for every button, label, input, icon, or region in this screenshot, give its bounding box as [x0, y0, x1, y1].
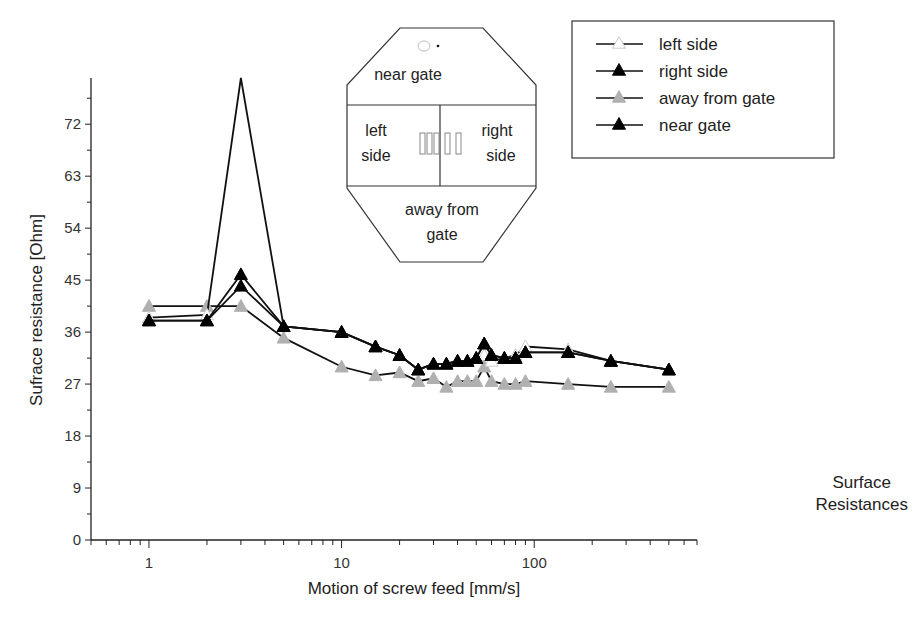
y-tick-label: 45	[64, 271, 81, 288]
x-axis-title: Motion of screw feed [mm/s]	[308, 579, 521, 598]
x-tick-label: 100	[522, 554, 547, 571]
legend-label: near gate	[659, 116, 731, 135]
caption-line-2: Resistances	[815, 494, 908, 516]
y-tick-label: 27	[64, 375, 81, 392]
series-near-gate	[142, 268, 675, 375]
data-point-triangle-icon	[335, 360, 348, 372]
data-point-triangle-icon	[393, 366, 406, 378]
y-tick-label: 9	[73, 479, 81, 496]
inset-label-right: right	[481, 122, 513, 139]
inset-diagram: near gate left side right side away from…	[347, 28, 536, 262]
y-tick-label: 72	[64, 115, 81, 132]
series-right-side	[142, 279, 675, 374]
chart: 0918273645546372110100 near gate left si…	[0, 0, 922, 624]
data-point-triangle-icon	[277, 331, 290, 343]
y-tick-label: 0	[73, 531, 81, 548]
inset-label-left-side: side	[361, 147, 390, 164]
y-tick-label: 36	[64, 323, 81, 340]
x-tick-label: 1	[145, 554, 153, 571]
data-point-triangle-icon	[485, 375, 498, 387]
legend-label: away from gate	[659, 89, 775, 108]
inset-label-gate: gate	[426, 226, 457, 243]
x-tick-label: 10	[333, 554, 350, 571]
inset-label-near-gate: near gate	[374, 66, 442, 83]
y-tick-label: 18	[64, 427, 81, 444]
y-axis-title: Sufrace resistance [Ohm]	[27, 214, 46, 406]
caption-line-1: Surface	[815, 472, 908, 494]
series-away-from-gate	[142, 300, 675, 393]
data-point-triangle-icon	[234, 268, 247, 280]
y-tick-label: 63	[64, 167, 81, 184]
legend-label: left side	[659, 35, 718, 54]
legend-label: right side	[659, 62, 728, 81]
legend: left sideright sideaway from gatenear ga…	[572, 21, 834, 158]
inset-label-away: away from	[405, 201, 479, 218]
data-point-triangle-icon	[412, 363, 425, 375]
data-point-triangle-icon	[427, 372, 440, 384]
data-point-triangle-icon	[393, 349, 406, 361]
figure-caption: Surface Resistances	[815, 472, 908, 516]
data-point-triangle-icon	[369, 340, 382, 352]
data-point-triangle-icon	[478, 337, 491, 349]
inset-label-left: left	[365, 122, 387, 139]
data-point-triangle-icon	[519, 375, 532, 387]
inset-label-right-side: side	[486, 147, 515, 164]
y-tick-label: 54	[64, 219, 81, 236]
